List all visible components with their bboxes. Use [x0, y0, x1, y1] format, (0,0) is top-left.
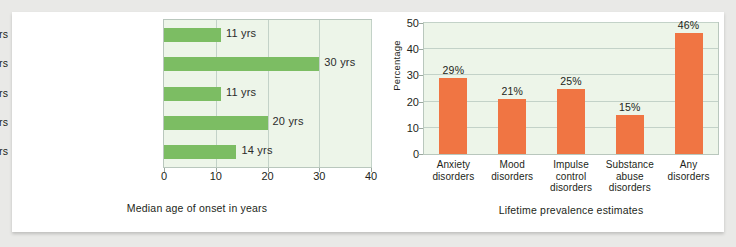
bar	[164, 57, 319, 71]
bar	[164, 116, 268, 130]
category-label-line: disorders	[668, 171, 710, 183]
left-chart-plot-area: 11 yrs30 yrs11 yrs20 yrs14 yrs	[163, 19, 372, 168]
bar-value-label: 21%	[501, 85, 523, 97]
category-label-line: disorders	[491, 171, 533, 183]
bar	[675, 33, 703, 154]
bar	[164, 28, 221, 42]
bar-value-label: 29%	[443, 64, 465, 76]
right-chart-plot-area: 29%21%25%15%46%	[423, 22, 719, 155]
right-bar-chart: Percentage 01020304050 29%21%25%15%46% A…	[382, 12, 724, 232]
category-label-line: disorders	[550, 182, 592, 194]
gridline	[319, 20, 320, 167]
gridline	[371, 20, 372, 167]
y-tick-label: 40	[399, 43, 419, 55]
bar	[498, 99, 526, 154]
bar-value-label: 25%	[560, 75, 582, 87]
category-label: Substance abuse disorders	[0, 116, 8, 128]
category-label-line: Anxiety	[432, 159, 474, 171]
category-label: Impulsecontroldisorders	[550, 159, 592, 194]
right-chart-axis-title: Lifetime prevalence estimates	[423, 204, 719, 216]
bar-value-label: 11 yrs	[226, 86, 256, 98]
bar-value-label: 14 yrs	[241, 144, 272, 156]
category-label: Mood disorders	[0, 57, 8, 69]
category-label-line: Substance	[606, 159, 654, 171]
category-label: Mooddisorders	[491, 159, 533, 182]
bar-value-label: 15%	[619, 101, 641, 113]
category-label-line: disorders	[606, 182, 654, 194]
category-label-line: Impulse	[550, 159, 592, 171]
category-label-line: Mood	[491, 159, 533, 171]
left-bar-chart: Anxiety disordersMood disordersImpulse c…	[12, 12, 382, 232]
y-tick-label: 0	[399, 148, 419, 160]
bar	[439, 78, 467, 154]
bar-value-label: 46%	[678, 19, 700, 31]
category-label-line: disorders	[432, 171, 474, 183]
x-tick-mark	[319, 168, 320, 172]
bar-value-label: 11 yrs	[226, 27, 256, 39]
bar	[164, 87, 221, 101]
y-tick-label: 20	[399, 96, 419, 108]
category-label: Substanceabusedisorders	[606, 159, 654, 194]
bar	[557, 89, 585, 155]
category-label: Anxiety disorders	[0, 28, 8, 40]
category-label-line: control	[550, 171, 592, 183]
category-label-line: abuse	[606, 171, 654, 183]
x-tick-mark	[371, 168, 372, 172]
y-tick-label: 30	[399, 69, 419, 81]
bar	[616, 115, 644, 154]
left-chart-axis-title: Median age of onset in years	[12, 202, 382, 214]
x-tick-mark	[216, 168, 217, 172]
category-label: Anxietydisorders	[432, 159, 474, 182]
category-label: Anydisorders	[668, 159, 710, 182]
y-tick-label: 10	[399, 122, 419, 134]
x-tick-mark	[164, 168, 165, 172]
gridline	[424, 22, 718, 23]
bar-value-label: 30 yrs	[324, 56, 355, 68]
category-label: Any disorders	[0, 145, 8, 157]
category-label-line: Any	[668, 159, 710, 171]
bar-value-label: 20 yrs	[273, 115, 304, 127]
y-tick-label: 50	[399, 17, 419, 29]
x-tick-mark	[268, 168, 269, 172]
category-label: Impulse control disorders	[0, 87, 8, 99]
bar	[164, 145, 236, 159]
figure-card: Anxiety disordersMood disordersImpulse c…	[12, 12, 724, 232]
